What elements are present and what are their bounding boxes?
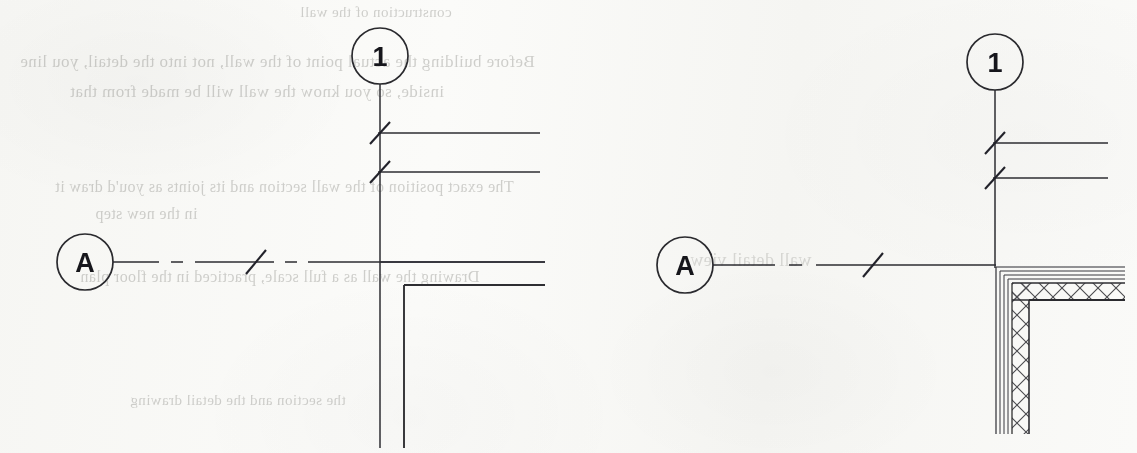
grid-bubble-label: A <box>675 251 695 281</box>
grid-bubble-label: A <box>75 248 95 278</box>
scanned-drawing-page: construction of the wall Before building… <box>0 0 1137 453</box>
layer-insulation-vertical <box>1012 283 1029 434</box>
right-wall-assembly <box>996 267 1125 434</box>
detail-right: 1 A <box>657 34 1125 434</box>
grid-bubble-label: 1 <box>372 42 387 72</box>
drawing-vector-layer: 1 A <box>0 0 1137 453</box>
right-bubble-a[interactable]: A <box>657 237 713 293</box>
right-bubble-1[interactable]: 1 <box>967 34 1023 90</box>
detail-left: 1 A <box>57 28 545 448</box>
grid-bubble-label: 1 <box>987 48 1002 78</box>
left-bubble-1[interactable]: 1 <box>352 28 408 84</box>
left-bubble-a[interactable]: A <box>57 234 113 290</box>
